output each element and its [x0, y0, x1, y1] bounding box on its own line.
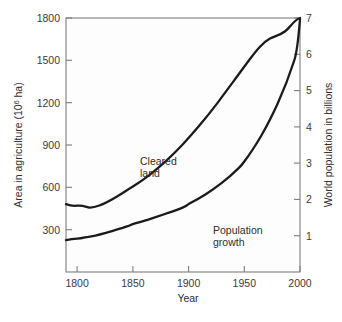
right-axis-title: World population in billions — [322, 83, 334, 208]
x-tick-label-1950: 1950 — [233, 277, 257, 289]
right-tick-label-2: 2 — [306, 193, 312, 205]
line-chart-figure: 1800 1500 1200 900 600 300 7 6 5 4 3 2 1… — [0, 0, 342, 322]
chart-screenshot: 1800 1500 1200 900 600 300 7 6 5 4 3 2 1… — [0, 0, 342, 322]
right-tick-label-5: 5 — [306, 84, 312, 96]
left-tick-label-1800: 1800 — [37, 12, 61, 24]
x-tick-label-1850: 1850 — [121, 277, 145, 289]
left-tick-label-300: 300 — [42, 224, 60, 236]
x-tick-label-1800: 1800 — [65, 277, 89, 289]
x-tick-label-1900: 1900 — [177, 277, 201, 289]
left-tick-label-1500: 1500 — [37, 54, 61, 66]
x-axis-title: Year — [177, 292, 199, 304]
annotation-cleared-land-line1: Cleared — [140, 155, 177, 167]
right-tick-label-7: 7 — [306, 12, 312, 24]
annotation-population-growth-line1: Population — [213, 224, 263, 236]
right-tick-label-1: 1 — [306, 230, 312, 242]
annotation-population-growth-line2: growth — [213, 236, 245, 248]
annotation-cleared-land-line2: land — [140, 167, 160, 179]
left-tick-label-600: 600 — [42, 181, 60, 193]
right-tick-label-3: 3 — [306, 157, 312, 169]
left-axis-title: Area in agriculture (106 ha) — [12, 82, 24, 207]
left-tick-label-1200: 1200 — [37, 97, 61, 109]
left-axis-title-suffix: ha) — [12, 82, 24, 100]
left-tick-label-900: 900 — [42, 139, 60, 151]
right-tick-label-4: 4 — [306, 121, 312, 133]
left-axis-title-prefix: Area in agriculture (10 — [12, 104, 24, 207]
x-tick-label-2000: 2000 — [288, 277, 312, 289]
right-tick-label-6: 6 — [306, 48, 312, 60]
